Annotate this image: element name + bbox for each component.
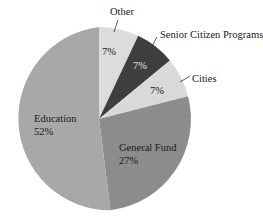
label-senior-pct: 7% [133, 60, 147, 72]
label-cities-pct: 7% [150, 85, 164, 97]
label-other-name: Other [110, 6, 134, 18]
label-education-name: Education [34, 113, 77, 125]
label-general-fund-pct: 27% [119, 155, 138, 167]
label-other-pct: 7% [102, 46, 116, 58]
label-cities-name: Cities [192, 73, 217, 85]
label-education-pct: 52% [34, 126, 53, 138]
label-senior-name: Senior Citizen Programs [160, 29, 263, 41]
label-general-fund-name: General Fund [119, 142, 176, 154]
